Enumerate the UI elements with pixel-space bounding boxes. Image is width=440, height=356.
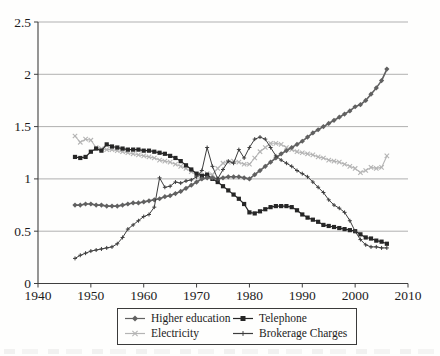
x-tick-label: 1970 (183, 288, 210, 303)
x-tick-label: 1990 (289, 288, 316, 303)
legend-label-higher-education: Higher education (151, 311, 231, 326)
y-tick-label: 0.5 (14, 224, 31, 239)
electricity-legend-marker (124, 328, 146, 339)
y-tick-label: 1 (24, 171, 31, 186)
legend-label-electricity: Electricity (151, 326, 199, 341)
y-tick-label: 2.5 (14, 15, 31, 30)
series-electricity (73, 134, 389, 178)
x-tick-label: 2000 (342, 288, 369, 303)
x-tick-label: 1940 (25, 288, 52, 303)
legend-label-telephone: Telephone (259, 311, 307, 326)
chart-figure: 00.511.522.51940195019601970198019902000… (0, 0, 440, 356)
x-tick-label: 1960 (130, 288, 157, 303)
series-higher-education (72, 66, 389, 208)
higher-education-legend-marker (124, 313, 146, 324)
series-telephone (73, 142, 389, 246)
x-tick-label: 1980 (236, 288, 263, 303)
axes (34, 22, 408, 288)
legend-label-brokerage-charges: Brokerage Charges (259, 326, 347, 341)
legend-item-electricity: Electricity (124, 326, 228, 341)
cropped-caption-remnant (4, 349, 434, 354)
x-tick-label: 2010 (395, 288, 422, 303)
legend-item-higher-education: Higher education (124, 311, 228, 326)
chart-legend: Higher education Telephone Electricity B… (117, 308, 357, 345)
legend-item-brokerage-charges: Brokerage Charges (232, 326, 347, 341)
y-tick-label: 2 (24, 67, 31, 82)
x-tick-label: 1950 (77, 288, 104, 303)
line-chart-plot: 00.511.522.51940195019601970198019902000… (0, 0, 440, 306)
gridlines (38, 22, 408, 231)
brokerage-charges-legend-marker (232, 328, 254, 339)
y-tick-label: 1.5 (14, 119, 31, 134)
legend-item-telephone: Telephone (232, 311, 347, 326)
telephone-legend-marker (232, 313, 254, 324)
